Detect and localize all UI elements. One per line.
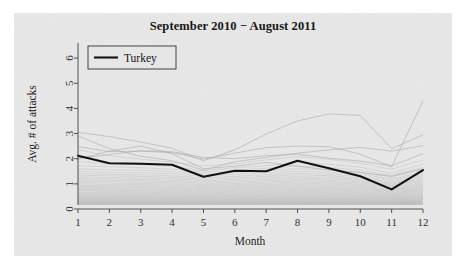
x-tick-label: 4 — [169, 216, 175, 228]
x-tick-label: 8 — [295, 216, 301, 228]
plot-area: 0123456 123456789101112 Avg. # of attack… — [14, 13, 452, 256]
x-tick-label: 6 — [232, 216, 238, 228]
y-tick-label: 1 — [63, 181, 75, 187]
x-axis-title: Month — [235, 235, 266, 247]
x-tick-label: 1 — [75, 216, 81, 228]
y-axis-title: Avg. # of attacks — [26, 85, 39, 163]
x-tick-label: 10 — [355, 216, 367, 228]
y-tick-label: 4 — [63, 105, 75, 111]
x-tick-label: 3 — [138, 216, 144, 228]
y-tick-label: 6 — [63, 55, 75, 61]
background-series-line — [78, 205, 423, 206]
y-tick-label: 3 — [63, 130, 75, 136]
x-tick-label: 5 — [201, 216, 207, 228]
y-tick-group: 0123456 — [63, 55, 78, 212]
background-series-group — [78, 101, 423, 207]
x-tick-label: 9 — [326, 216, 332, 228]
y-tick-label: 2 — [63, 156, 75, 162]
x-tick-label: 11 — [386, 216, 397, 228]
y-tick-label: 5 — [63, 80, 75, 86]
background-series-line — [78, 206, 423, 207]
x-tick-group: 123456789101112 — [75, 209, 428, 228]
background-series-line — [78, 136, 423, 170]
x-tick-label: 7 — [263, 216, 269, 228]
legend-label-turkey: Turkey — [124, 52, 157, 65]
background-series-line — [78, 205, 423, 206]
chart-figure: September 2010 − August 2011 — [0, 0, 464, 271]
background-series-line — [78, 206, 423, 207]
chart-panel: September 2010 − August 2011 — [14, 13, 452, 256]
x-tick-label: 2 — [107, 216, 113, 228]
legend[interactable]: Turkey — [88, 46, 176, 69]
background-series-line — [78, 206, 423, 207]
background-series-line — [78, 205, 423, 206]
background-series-line — [78, 206, 423, 207]
x-tick-label: 12 — [418, 216, 429, 228]
y-tick-label: 0 — [63, 206, 75, 212]
